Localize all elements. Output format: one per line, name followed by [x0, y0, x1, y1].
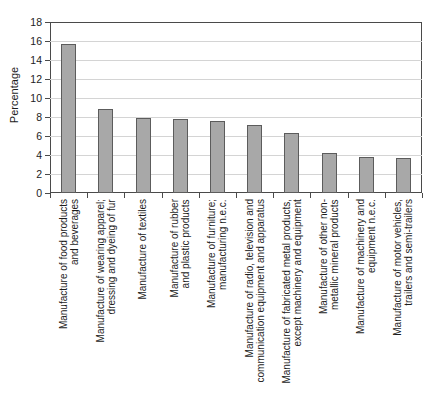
x-tick-mark — [273, 193, 274, 198]
x-tick-mark — [162, 193, 163, 198]
x-category-label: Manufacture of other non- metallic miner… — [318, 199, 341, 314]
y-tick-label: 2 — [0, 168, 42, 180]
bar — [322, 153, 337, 193]
x-tick-mark — [422, 193, 423, 198]
x-tick-mark — [385, 193, 386, 198]
x-tick-mark — [87, 193, 88, 198]
x-category-label: Manufacture of furniture; manufacturing … — [206, 199, 229, 308]
x-category-label: Manufacture of rubber and plastic produc… — [169, 199, 192, 297]
bar — [247, 125, 262, 193]
y-tick-label: 14 — [0, 54, 42, 66]
gridline — [50, 98, 422, 99]
bar — [173, 119, 188, 193]
x-category-label: Manufacture of fabricated metal products… — [281, 199, 304, 384]
bar — [61, 44, 76, 193]
gridline — [50, 41, 422, 42]
y-tick-label: 18 — [0, 16, 42, 28]
y-tick-label: 6 — [0, 130, 42, 142]
y-tick-label: 8 — [0, 111, 42, 123]
x-category-label: Manufacture of food products and beverag… — [58, 199, 81, 329]
gridline — [50, 60, 422, 61]
y-tick-label: 10 — [0, 92, 42, 104]
x-tick-mark — [199, 193, 200, 198]
x-category-label: Manufacture of machinery and equipment n… — [355, 199, 378, 334]
y-tick-label: 16 — [0, 35, 42, 47]
bar — [284, 133, 299, 193]
x-category-label: Manufacture of radio, television and com… — [244, 199, 267, 382]
bar — [136, 118, 151, 193]
x-category-label: Manufacture of textiles — [137, 199, 149, 300]
y-tick-mark — [45, 22, 50, 23]
x-category-label: Manufacture of motor vehicles, trailers … — [392, 199, 415, 336]
x-tick-mark — [124, 193, 125, 198]
x-tick-mark — [236, 193, 237, 198]
y-tick-label: 12 — [0, 73, 42, 85]
x-tick-mark — [50, 193, 51, 198]
y-tick-label: 4 — [0, 149, 42, 161]
bar — [359, 157, 374, 193]
bar — [98, 109, 113, 193]
gridline — [50, 79, 422, 80]
x-tick-mark — [348, 193, 349, 198]
bar — [396, 158, 411, 193]
x-category-label: Manufacture of wearing apparel; dressing… — [95, 199, 118, 342]
bar-chart-figure: Percentage 024681012141618Manufacture of… — [0, 0, 436, 407]
y-tick-label: 0 — [0, 187, 42, 199]
x-tick-mark — [310, 193, 311, 198]
bar — [210, 121, 225, 193]
